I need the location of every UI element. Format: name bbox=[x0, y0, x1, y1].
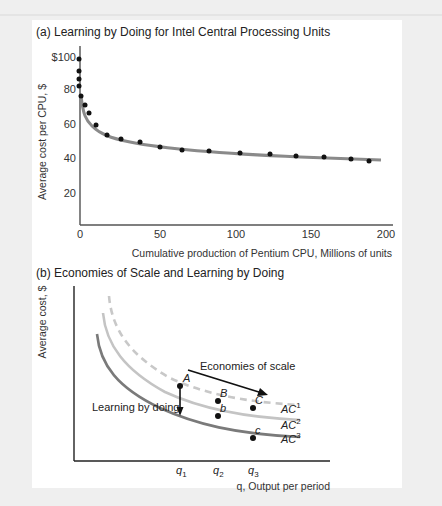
panel-b-x-label: q, Output per period bbox=[237, 480, 331, 492]
y-tick-60: 60 bbox=[64, 118, 76, 130]
data-point bbox=[367, 159, 372, 164]
learning-curve bbox=[81, 95, 381, 160]
x-tick-150: 150 bbox=[302, 228, 320, 240]
panel-a-y-label: Average cost per CPU, $ bbox=[36, 84, 48, 200]
ac3-curve bbox=[97, 334, 300, 437]
data-point bbox=[87, 111, 92, 116]
y-tick-80: 80 bbox=[64, 83, 76, 95]
label-b: b bbox=[220, 402, 226, 414]
panel-a-x-label: Cumulative production of Pentium CPU, Mi… bbox=[132, 247, 392, 259]
data-point bbox=[238, 151, 243, 156]
data-point bbox=[119, 137, 124, 142]
y-tick-100: $100 bbox=[52, 51, 76, 63]
label-B: B bbox=[220, 387, 227, 399]
ac1-curve bbox=[109, 296, 300, 405]
panel-a-title: (a) Learning by Doing for Intel Central … bbox=[36, 25, 330, 39]
data-point bbox=[77, 77, 82, 82]
y-tick-20: 20 bbox=[64, 187, 76, 199]
data-point bbox=[105, 133, 110, 138]
panel-b: (b) Economies of Scale and Learning by D… bbox=[36, 266, 330, 492]
label-C: C bbox=[255, 394, 263, 406]
data-point bbox=[94, 123, 99, 128]
x-tick-q2: q2 bbox=[213, 464, 224, 479]
data-point bbox=[158, 145, 163, 150]
ac1-label: AC1 bbox=[280, 401, 301, 415]
y-tick-40: 40 bbox=[64, 152, 76, 164]
economies-of-scale-label: Economies of scale bbox=[200, 360, 295, 372]
data-point bbox=[180, 148, 185, 153]
data-point bbox=[77, 84, 82, 89]
data-point bbox=[349, 157, 354, 162]
data-point bbox=[79, 94, 84, 99]
label-A: A bbox=[182, 372, 190, 384]
ac3-label: AC3 bbox=[280, 431, 301, 445]
label-c: c bbox=[255, 424, 261, 436]
data-points bbox=[77, 57, 372, 164]
figure-svg: (a) Learning by Doing for Intel Central … bbox=[0, 0, 442, 506]
x-tick-q1: q1 bbox=[176, 464, 187, 479]
x-tick-100: 100 bbox=[227, 228, 245, 240]
data-point bbox=[138, 140, 143, 145]
data-point bbox=[77, 69, 82, 74]
data-point bbox=[294, 154, 299, 159]
learning-by-doing-label: Learning by doing bbox=[92, 401, 179, 413]
data-point bbox=[322, 155, 327, 160]
data-point bbox=[268, 152, 273, 157]
data-point bbox=[207, 149, 212, 154]
panel-b-title: (b) Economies of Scale and Learning by D… bbox=[36, 266, 284, 280]
ac2-label: AC2 bbox=[280, 417, 301, 431]
data-point bbox=[83, 103, 88, 108]
data-point bbox=[77, 57, 82, 62]
x-tick-0: 0 bbox=[77, 228, 83, 240]
x-tick-200: 200 bbox=[377, 228, 395, 240]
x-tick-q3: q3 bbox=[248, 464, 259, 479]
panel-b-y-label: Average cost, $ bbox=[36, 285, 48, 358]
x-tick-50: 50 bbox=[154, 228, 166, 240]
panel-a: (a) Learning by Doing for Intel Central … bbox=[36, 25, 395, 259]
